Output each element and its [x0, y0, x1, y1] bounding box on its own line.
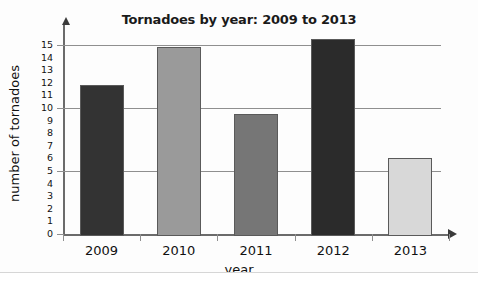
y-axis-tick-label: 5: [47, 166, 53, 176]
x-axis-label-2012: 2012: [317, 243, 350, 258]
y-axis-tick-label: 13: [41, 65, 53, 75]
y-axis-tick-label: 4: [47, 179, 53, 189]
y-axis-tick-label: 12: [41, 78, 53, 88]
x-axis-tick: [140, 234, 141, 241]
y-axis-tick-label: 14: [41, 53, 53, 63]
y-axis-title: number of tornadoes: [7, 24, 22, 244]
bar-2013: [388, 158, 432, 236]
y-axis-tick-label: 6: [47, 154, 53, 164]
bar-2012: [311, 39, 355, 236]
y-axis-tick-label: 15: [41, 40, 53, 50]
x-axis-label-2013: 2013: [394, 243, 427, 258]
y-axis-tick: [57, 45, 63, 46]
page-bottom-strip: [0, 273, 478, 294]
y-axis-tick-label: 2: [47, 204, 53, 214]
y-axis-tick-label: 1: [47, 217, 53, 227]
y-axis-line: [63, 24, 65, 234]
x-axis-title: year: [0, 262, 478, 273]
x-axis-label-2009: 2009: [85, 243, 118, 258]
y-axis-tick-label: 8: [47, 128, 53, 138]
x-axis-tick: [63, 234, 64, 241]
x-axis-tick: [217, 234, 218, 241]
x-axis-tick: [295, 234, 296, 241]
bar-2011: [234, 114, 278, 236]
y-axis-tick: [57, 171, 63, 172]
chart-card: Tornadoes by year: 2009 to 2013 01234567…: [0, 0, 478, 273]
y-axis-tick-label: 0: [47, 229, 53, 239]
bar-2010: [157, 47, 201, 236]
bar-2009: [80, 85, 124, 236]
gridline: [63, 45, 441, 46]
x-axis-tick: [372, 234, 373, 241]
y-axis-tick: [57, 108, 63, 109]
y-axis-tick-label: 11: [41, 91, 53, 101]
y-axis-tick-label: 3: [47, 191, 53, 201]
y-axis-tick-label: 7: [47, 141, 53, 151]
x-axis-label-2010: 2010: [162, 243, 195, 258]
x-axis-tick: [449, 234, 450, 241]
y-axis-arrow-icon: [62, 17, 70, 25]
x-axis-label-2011: 2011: [239, 243, 272, 258]
plot-area: 0123456789101112131415 20092010201120122…: [63, 24, 457, 236]
y-axis-tick-label: 9: [47, 116, 53, 126]
y-axis-tick-label: 10: [41, 103, 53, 113]
